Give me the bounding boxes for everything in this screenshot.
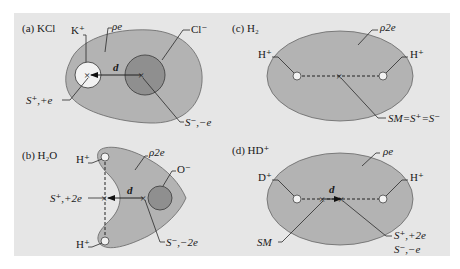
panel-title-c: (c) H₂	[232, 22, 259, 35]
proton-right-c	[379, 72, 387, 80]
centroid-marker-c: ×	[336, 70, 342, 82]
proton-top-b	[101, 153, 109, 161]
panel-title-a: (a) KCl	[22, 22, 55, 35]
ion-label-h-left-c: H⁺	[258, 48, 272, 60]
panel-title-d: (d) HD⁺	[232, 144, 269, 157]
centroid-negative-marker-a: ×	[138, 69, 144, 81]
ion-label-h-right-c: H⁺	[410, 48, 424, 60]
centroid-sm-marker-d: ×	[319, 193, 325, 205]
ion-label-h-d: H⁺	[410, 171, 424, 183]
ion-label-h-top-b: H⁺	[76, 153, 90, 165]
figure-root: × × d (a) KCl K⁺ ρe Cl⁻ S⁺,+e S⁻,−e × (c…	[0, 0, 460, 269]
ion-label-d: D⁺	[258, 171, 272, 183]
panel-title-b: (b) H₂O	[22, 149, 57, 162]
centroid-label-splus-d: S⁺,+2e	[394, 229, 426, 241]
centroid-label-splus-a: S⁺,+e	[26, 94, 52, 106]
deuteron-d	[293, 195, 301, 203]
centroid-label-splus-b: S⁺,+2e	[50, 192, 82, 204]
density-label-a: ρe	[111, 20, 122, 32]
density-label-c: ρ2e	[379, 21, 396, 33]
ion-label-cl: Cl⁻	[191, 23, 207, 35]
centroid-label-sminus-d: S⁻,−e	[394, 243, 420, 255]
ion-label-h-bottom-b: H⁺	[76, 238, 90, 250]
proton-bottom-b	[101, 237, 109, 245]
proton-d	[379, 195, 387, 203]
ion-label-k: K⁺	[71, 24, 85, 36]
centroid-negative-marker-b: ×	[140, 192, 146, 204]
molecule-dipole-diagram: × × d (a) KCl K⁺ ρe Cl⁻ S⁺,+e S⁻,−e × (c…	[0, 0, 460, 269]
density-label-d: ρe	[382, 145, 393, 157]
proton-left-c	[293, 72, 301, 80]
distance-label-a: d	[113, 61, 119, 73]
anion-o	[148, 186, 172, 210]
centroid-label-c: SM=S⁺=S⁻	[388, 112, 440, 124]
centroid-s-marker-d: ×	[338, 193, 344, 205]
centroid-label-sminus-a: S⁻,−e	[185, 116, 211, 128]
centroid-label-sminus-b: S⁻,−2e	[166, 236, 198, 248]
distance-label-d: d	[329, 183, 335, 195]
centroid-label-sm-d: SM	[257, 236, 273, 248]
density-label-b: ρ2e	[148, 146, 165, 158]
ion-label-o: O⁻	[177, 163, 191, 175]
distance-label-b: d	[127, 184, 133, 196]
